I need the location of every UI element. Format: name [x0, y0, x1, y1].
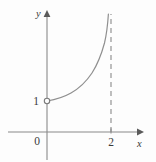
graph-canvas: y x 0 1 2: [0, 0, 156, 162]
open-circle-point: [44, 98, 49, 103]
y-tick-label-1: 1: [33, 95, 39, 107]
origin-label: 0: [34, 135, 40, 147]
x-axis-arrow-icon: [137, 129, 144, 136]
x-tick-label-2: 2: [108, 136, 114, 148]
function-curve: [47, 14, 108, 101]
y-axis-arrow-icon: [44, 10, 51, 17]
x-axis-label: x: [136, 138, 142, 149]
y-axis-label: y: [35, 8, 41, 19]
math-figure: y x 0 1 2: [0, 0, 156, 162]
